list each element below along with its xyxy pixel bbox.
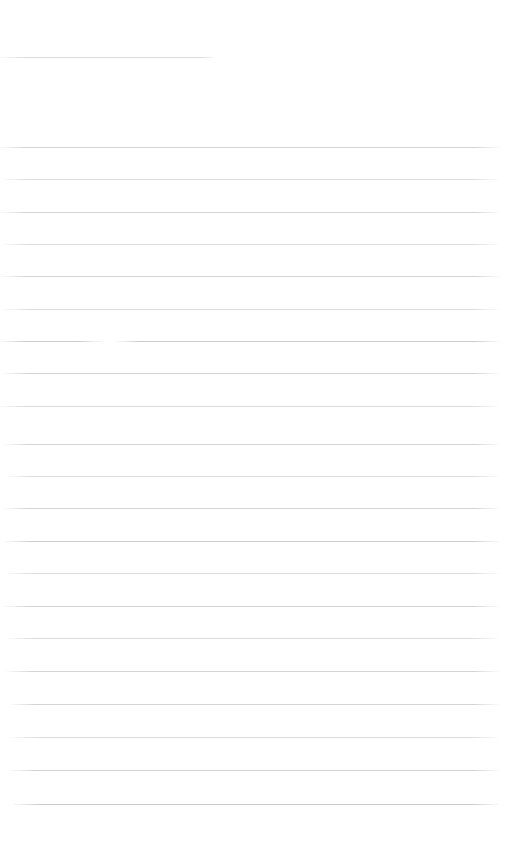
ruled-line-7-segment-b <box>115 341 500 342</box>
ruled-line-9 <box>0 406 499 407</box>
ruled-line-2 <box>2 179 499 180</box>
ruled-line-10 <box>4 444 499 445</box>
ruled-line-19 <box>12 737 499 738</box>
ruled-line-14 <box>7 573 499 574</box>
ruled-line-8 <box>2 373 499 374</box>
ruled-line-12 <box>3 508 499 509</box>
ruled-lines-layer <box>0 0 524 862</box>
document-page <box>0 0 524 862</box>
ruled-line-16 <box>8 638 499 639</box>
ruled-line-20 <box>9 770 499 771</box>
ruled-line-1 <box>0 147 500 148</box>
ruled-line-21 <box>13 804 499 805</box>
ruled-line-7-segment-a <box>0 341 103 342</box>
ruled-line-13 <box>5 541 499 542</box>
ruled-line-5 <box>1 276 500 277</box>
ruled-line-6 <box>4 309 499 310</box>
ruled-line-15 <box>4 606 499 607</box>
ruled-line-3 <box>0 212 499 213</box>
ruled-line-4 <box>3 244 499 245</box>
ruled-line-11 <box>6 476 499 477</box>
ruled-line-18 <box>10 704 499 705</box>
header-rule <box>0 57 216 58</box>
ruled-line-17 <box>6 671 499 672</box>
